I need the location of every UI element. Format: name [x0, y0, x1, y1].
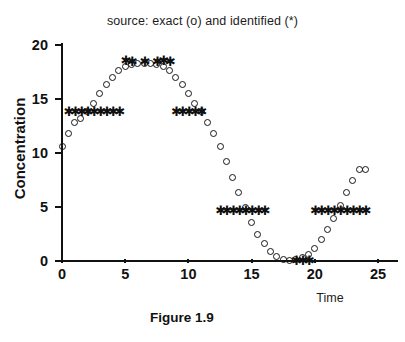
- data-point-identified: [329, 206, 338, 215]
- x-axis-tick: [124, 259, 126, 263]
- y-axis-tick: [55, 44, 63, 46]
- data-point-exact: [198, 108, 205, 115]
- data-point-identified: [190, 107, 199, 116]
- data-point-exact: [77, 115, 84, 122]
- x-axis-tick-label: 25: [363, 267, 393, 282]
- data-point-identified: [234, 206, 243, 215]
- x-axis-tick: [314, 259, 316, 263]
- figure-caption: Figure 1.9: [122, 310, 242, 325]
- data-point-exact: [248, 219, 255, 226]
- data-point-identified: [95, 107, 104, 116]
- y-axis-label: Concentration: [11, 74, 28, 224]
- y-axis-tick: [55, 98, 63, 100]
- data-point-identified: [253, 206, 262, 215]
- data-point-identified: [197, 107, 206, 116]
- data-point-exact: [223, 158, 230, 165]
- data-point-exact: [324, 226, 331, 233]
- data-point-exact: [128, 61, 135, 68]
- x-axis-tick-label: 15: [237, 267, 267, 282]
- data-point-exact: [185, 90, 192, 97]
- data-point-identified: [222, 206, 231, 215]
- x-axis-tick-label: 5: [110, 267, 140, 282]
- data-point-exact: [349, 177, 356, 184]
- data-point-identified: [70, 107, 79, 116]
- data-point-identified: [216, 206, 225, 215]
- data-point-identified: [114, 107, 123, 116]
- x-axis-tick-label: 0: [47, 267, 77, 282]
- data-point-identified: [76, 107, 85, 116]
- data-point-exact: [71, 119, 78, 126]
- data-point-identified: [83, 107, 92, 116]
- data-point-exact: [115, 67, 122, 74]
- data-point-identified: [64, 107, 73, 116]
- data-point-exact: [330, 215, 337, 222]
- x-axis-line: [61, 260, 398, 262]
- data-point-identified: [152, 57, 161, 66]
- data-point-exact: [229, 174, 236, 181]
- data-point-exact: [96, 90, 103, 97]
- data-point-exact: [84, 108, 91, 115]
- data-point-exact: [210, 130, 217, 137]
- data-point-exact: [311, 245, 318, 252]
- data-point-identified: [102, 107, 111, 116]
- data-point-exact: [134, 60, 141, 67]
- data-point-identified: [108, 107, 117, 116]
- data-point-identified: [171, 107, 180, 116]
- data-point-identified: [228, 206, 237, 215]
- data-point-exact: [362, 166, 369, 173]
- data-point-identified: [323, 206, 332, 215]
- figure-container: source: exact (o) and identified (*) 051…: [0, 0, 405, 342]
- data-point-exact: [109, 74, 116, 81]
- data-point-exact: [318, 236, 325, 243]
- data-point-identified: [310, 206, 319, 215]
- y-axis-tick-label: 20: [22, 38, 48, 53]
- data-point-exact: [65, 130, 72, 137]
- data-point-identified: [184, 107, 193, 116]
- data-point-identified: [241, 206, 250, 215]
- data-point-exact: [217, 143, 224, 150]
- data-point-identified: [342, 206, 351, 215]
- chart-title: source: exact (o) and identified (*): [0, 14, 405, 28]
- data-point-exact: [235, 189, 242, 196]
- data-point-identified: [159, 56, 168, 65]
- data-point-exact: [337, 202, 344, 209]
- data-point-identified: [121, 56, 130, 65]
- data-point-identified: [355, 206, 364, 215]
- data-point-exact: [305, 251, 312, 258]
- data-point-exact: [122, 63, 129, 70]
- x-axis-label: Time: [300, 291, 360, 305]
- data-point-exact: [103, 81, 110, 88]
- data-point-identified: [361, 206, 370, 215]
- y-axis-tick: [55, 152, 63, 154]
- data-point-exact: [141, 60, 148, 67]
- data-point-identified: [348, 206, 357, 215]
- x-axis-tick: [251, 259, 253, 263]
- data-point-identified: [89, 107, 98, 116]
- data-point-exact: [261, 240, 268, 247]
- data-point-exact: [147, 60, 154, 67]
- data-point-exact: [172, 74, 179, 81]
- data-point-exact: [179, 81, 186, 88]
- data-point-identified: [317, 206, 326, 215]
- data-point-exact: [160, 63, 167, 70]
- y-axis-tick-label: 0: [22, 254, 48, 269]
- data-point-exact: [343, 189, 350, 196]
- data-point-exact: [204, 119, 211, 126]
- data-point-exact: [166, 67, 173, 74]
- x-axis-tick-label: 10: [173, 267, 203, 282]
- data-point-identified: [178, 107, 187, 116]
- data-point-identified: [336, 206, 345, 215]
- y-axis-tick: [55, 206, 63, 208]
- data-point-exact: [153, 61, 160, 68]
- x-axis-tick: [187, 259, 189, 263]
- data-point-identified: [165, 57, 174, 66]
- data-point-identified: [127, 57, 136, 66]
- x-axis-tick-label: 20: [300, 267, 330, 282]
- data-point-exact: [242, 204, 249, 211]
- y-axis-tick: [55, 260, 63, 262]
- data-point-exact: [191, 100, 198, 107]
- data-point-identified: [247, 206, 256, 215]
- data-point-identified: [260, 206, 269, 215]
- data-point-exact: [267, 248, 274, 255]
- data-point-identified: [140, 57, 149, 66]
